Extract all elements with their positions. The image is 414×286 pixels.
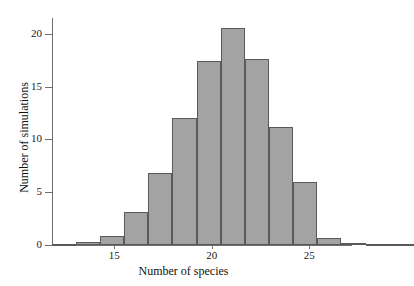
histogram-bar (366, 244, 390, 246)
y-axis-title-wrap: Number of simulations (10, 12, 30, 232)
x-axis-tick-label: 25 (304, 249, 315, 261)
histogram-bar (221, 28, 245, 245)
y-axis-tick (45, 192, 52, 193)
histogram-bar (269, 127, 293, 245)
x-axis-tick-label: 15 (109, 249, 120, 261)
y-axis-tick-label: 0 (22, 238, 42, 250)
histogram-bar (317, 238, 341, 245)
histogram-bar (197, 61, 221, 245)
x-axis-title: Number of species (0, 264, 367, 279)
y-axis-line (52, 18, 53, 245)
histogram-bar (148, 173, 172, 245)
y-axis-title: Number of simulations (17, 38, 32, 238)
y-axis-tick (45, 245, 52, 246)
y-axis-tick (45, 139, 52, 140)
histogram-bar (293, 182, 317, 245)
histogram-bar (172, 118, 196, 245)
y-axis-tick (45, 87, 52, 88)
histogram-bar (124, 212, 148, 245)
histogram-bar (390, 244, 414, 246)
x-axis-tick-label: 20 (206, 249, 217, 261)
y-axis-tick (45, 34, 52, 35)
histogram-bar (245, 59, 269, 245)
histogram-bar (100, 236, 124, 245)
x-axis-line (52, 245, 352, 246)
